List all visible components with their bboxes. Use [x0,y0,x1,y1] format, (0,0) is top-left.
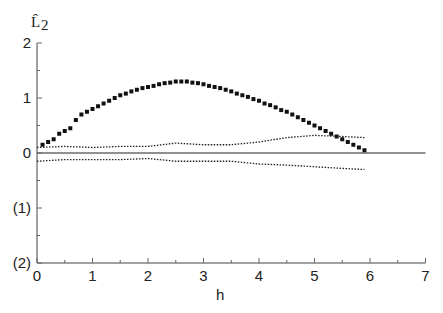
x-tick-label: 4 [255,267,263,284]
data-point [229,89,233,93]
data-point [263,102,267,106]
data-point [340,137,344,141]
data-point [235,92,239,96]
data-point [41,143,45,147]
data-point [301,118,305,122]
data-point [296,115,300,119]
data-point [268,103,272,107]
data-point [152,84,156,88]
data-point [313,124,317,128]
y-axis-label: L̂ [31,14,40,30]
data-point [57,132,61,136]
y-tick-label: 0 [23,144,31,161]
data-point [68,126,72,130]
data-point [346,140,350,144]
chart: 210(1)(2)01234567hL̂2 [0,0,443,313]
data-point [118,93,122,97]
data-point [129,89,133,93]
data-point [257,99,261,103]
data-point [218,86,222,90]
data-point [279,108,283,112]
data-point [274,105,278,109]
data-point [318,126,322,130]
data-point [351,143,355,147]
data-point [285,110,289,114]
data-point [190,81,194,85]
data-point [185,80,189,84]
x-tick-label: 5 [310,267,318,284]
data-point [240,93,244,97]
data-point [107,99,111,103]
data-point [52,137,56,141]
data-point [329,132,333,136]
data-point [224,88,228,92]
data-point [140,86,144,90]
data-point [246,95,250,99]
data-point [79,113,83,117]
data-point [196,81,200,85]
y-axis-label-subscript: 2 [41,17,49,33]
x-tick-label: 7 [421,267,429,284]
data-point [85,110,89,114]
data-point [324,129,328,133]
data-point [91,107,95,111]
data-point [96,104,100,108]
x-tick-label: 3 [199,267,207,284]
data-point [213,85,217,89]
y-tick-label: 2 [23,34,31,51]
data-point [290,113,294,117]
x-tick-label: 0 [33,267,41,284]
data-point [168,81,172,85]
data-point [357,146,361,150]
data-point [74,118,78,122]
data-point [135,88,139,92]
x-axis-label: h [216,286,224,303]
data-point [362,148,366,152]
x-tick-label: 1 [88,267,96,284]
data-point [63,129,67,133]
y-tick-label: 1 [23,89,31,106]
data-point [179,80,183,84]
data-point [102,102,106,106]
data-point [163,81,167,85]
x-tick-label: 2 [144,267,152,284]
envelope-line [37,135,364,147]
data-point [202,82,206,86]
data-point [124,92,128,96]
data-point [207,84,211,88]
envelope-line [37,159,364,170]
data-point [157,82,161,86]
data-point [46,140,50,144]
data-point [146,85,150,89]
x-tick-label: 6 [366,267,374,284]
data-point [113,96,117,100]
y-tick-label: (2) [13,254,31,271]
data-point [251,97,255,101]
data-point [307,121,311,125]
data-point [174,80,178,84]
y-tick-label: (1) [13,199,31,216]
